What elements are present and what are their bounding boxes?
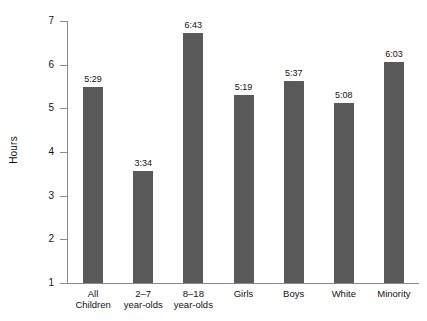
x-axis-category-label: All Children (68, 288, 118, 310)
bar-value-label: 5:19 (235, 83, 253, 92)
bar[interactable]: 5:19 (234, 95, 254, 284)
bars-layer: 5:29All Children3:342–7 year-olds6:438–1… (0, 0, 427, 321)
x-axis-category-label: Girls (218, 288, 268, 299)
bar-rect[interactable] (234, 95, 254, 284)
x-axis-category-label: 2–7 year-olds (118, 288, 168, 310)
bar-rect[interactable] (83, 87, 103, 283)
bar-rect[interactable] (183, 33, 203, 283)
bar[interactable]: 6:43 (183, 33, 203, 283)
bar[interactable]: 5:08 (334, 103, 354, 283)
bar-value-label: 6:03 (385, 50, 403, 59)
bar[interactable]: 5:37 (284, 81, 304, 283)
bar[interactable]: 6:03 (384, 62, 404, 283)
x-axis-category-label: 8–18 year-olds (168, 288, 218, 310)
bar-chart: Hours 1234567 5:29All Children3:342–7 ye… (0, 0, 427, 321)
x-axis-category-label: Boys (269, 288, 319, 299)
bar-rect[interactable] (334, 103, 354, 283)
bar-rect[interactable] (284, 81, 304, 283)
bar-rect[interactable] (384, 62, 404, 283)
bar-value-label: 5:08 (335, 91, 353, 100)
bar-value-label: 3:34 (134, 159, 152, 168)
bar-value-label: 5:29 (84, 75, 102, 84)
bar-value-label: 6:43 (185, 21, 203, 30)
x-axis-category-label: Minority (369, 288, 419, 299)
bar[interactable]: 3:34 (133, 171, 153, 283)
bar-value-label: 5:37 (285, 69, 303, 78)
bar-rect[interactable] (133, 171, 153, 283)
bar[interactable]: 5:29 (83, 87, 103, 283)
x-axis-category-label: White (319, 288, 369, 299)
